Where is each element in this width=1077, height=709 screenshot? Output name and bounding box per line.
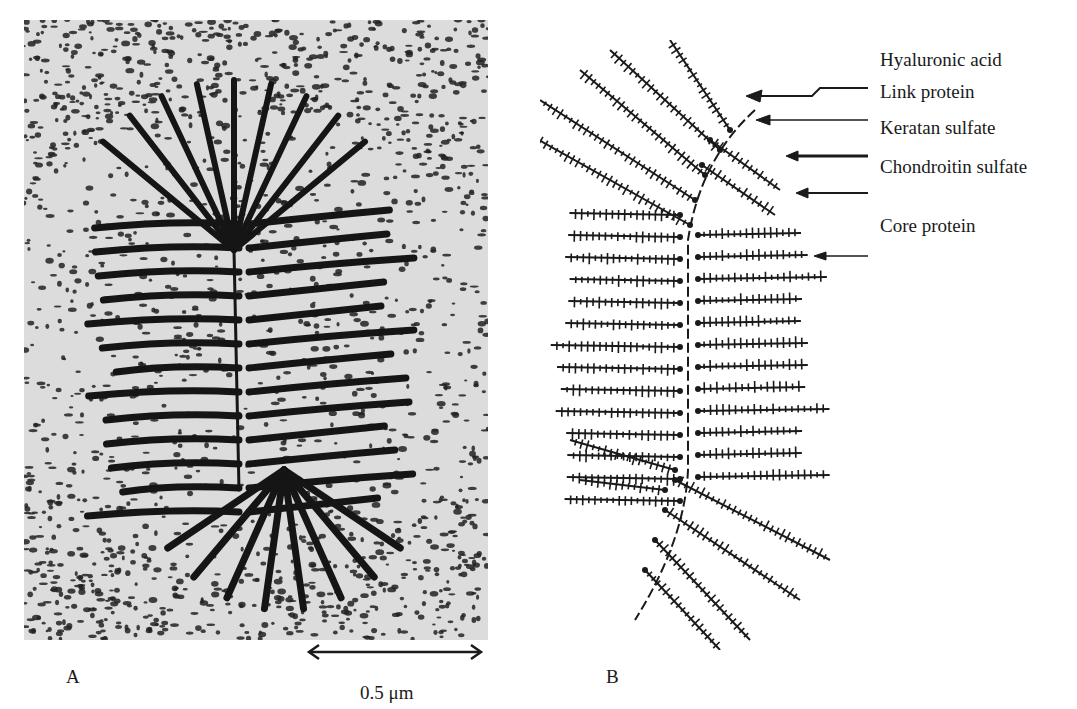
panel-a-label: A xyxy=(66,666,80,688)
scale-bar-label: 0.5 μm xyxy=(360,682,413,704)
callout-keratan-sulfate: Keratan sulfate xyxy=(880,117,996,139)
callout-link-protein: Link protein xyxy=(880,81,974,103)
arrowhead-icon xyxy=(746,90,762,102)
callout-arrows xyxy=(740,40,880,280)
callout-hyaluronic-acid: Hyaluronic acid xyxy=(880,49,1002,71)
scale-bar xyxy=(305,642,485,662)
arrow-hyaluronic-acid-icon xyxy=(750,88,868,96)
callout-chondroitin-sulfate: Chondroitin sulfate xyxy=(880,156,1027,178)
callout-core-protein: Core protein xyxy=(880,215,976,237)
micrograph-panel-a xyxy=(24,20,488,640)
double-arrow-icon xyxy=(305,642,485,662)
panel-b-label: B xyxy=(606,666,619,688)
micrograph-image xyxy=(24,20,488,640)
